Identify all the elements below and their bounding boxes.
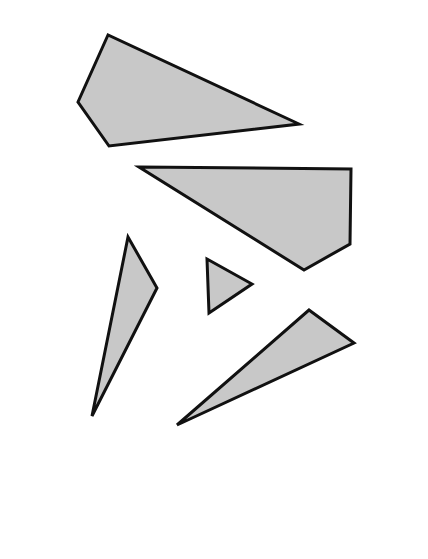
- diagram-canvas: [0, 0, 428, 559]
- quadrilateral-top: [78, 35, 299, 146]
- quadrilateral-middle: [139, 167, 351, 270]
- triangle-bottom: [177, 310, 354, 425]
- triangle-tall: [92, 237, 157, 416]
- triangle-small: [207, 259, 252, 313]
- shapes-svg: [0, 0, 428, 559]
